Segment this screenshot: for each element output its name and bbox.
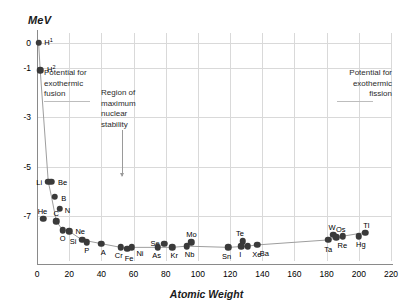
data-point-label: Te (236, 229, 244, 238)
data-point-label: W (329, 222, 336, 231)
binding-energy-chart: MeV Potential for exothermic fusion Pote… (0, 0, 413, 308)
data-point-label: O (60, 234, 66, 243)
data-point-label: Mo (186, 230, 196, 239)
data-point (40, 216, 47, 223)
data-point-label: Li (36, 177, 42, 186)
data-point-label: Os (336, 225, 346, 234)
data-point (356, 233, 363, 240)
data-point-label: Cr (115, 251, 123, 260)
data-point-label: Si (70, 236, 77, 245)
data-point-label: Ni (136, 249, 143, 258)
data-point-label: P (84, 246, 89, 255)
data-point-label: Sn (222, 252, 231, 261)
data-point (161, 240, 168, 247)
data-point (188, 239, 195, 246)
data-point (53, 218, 60, 225)
data-point-label: C (54, 209, 59, 218)
data-point (51, 193, 58, 200)
data-point (84, 239, 91, 246)
data-point-label: H2 (47, 64, 55, 75)
data-point (339, 233, 346, 240)
data-point-label: He (38, 206, 48, 215)
data-point-label: B (61, 193, 66, 202)
data-point (37, 67, 44, 74)
data-point-label: Kr (170, 251, 178, 260)
data-point (169, 244, 176, 251)
data-point-label: Tl (363, 220, 369, 229)
binding-energy-curve (0, 0, 413, 308)
data-point-label: Fe (125, 253, 134, 262)
data-point-label: Be (58, 177, 67, 186)
data-point (245, 243, 252, 250)
data-point-label: Re (337, 241, 347, 250)
data-point-label: Nb (185, 250, 195, 259)
data-point-label: A (101, 247, 106, 256)
data-point (35, 40, 42, 47)
data-point-label: Ba (260, 248, 269, 257)
data-point (254, 242, 261, 249)
data-point-label: N (65, 205, 70, 214)
data-point-label: As (152, 251, 161, 260)
data-point-label: Ta (324, 244, 332, 253)
data-point-label: H1 (44, 37, 52, 48)
data-point (66, 228, 73, 235)
data-point (48, 178, 55, 185)
data-point (225, 244, 232, 251)
data-point-label: I (239, 250, 241, 259)
data-point (129, 244, 136, 251)
data-point (154, 244, 161, 251)
data-point (362, 229, 369, 236)
data-point-label: Hg (356, 240, 366, 249)
data-point-label: Ne (75, 227, 85, 236)
data-point (98, 240, 105, 247)
